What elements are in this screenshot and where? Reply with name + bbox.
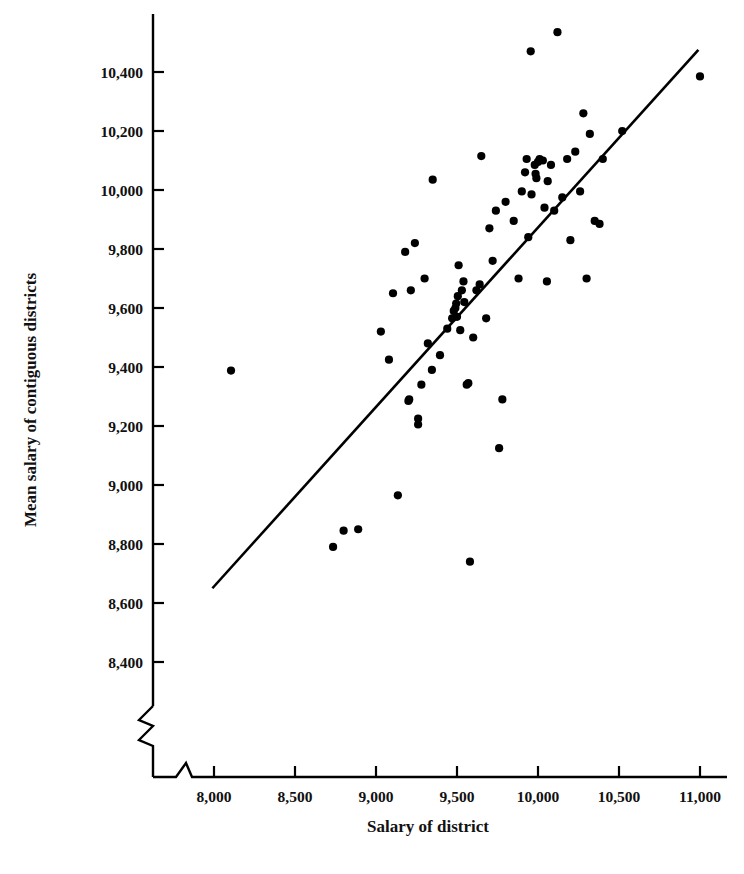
data-point [407,286,415,294]
x-tick-label: 8,500 [278,788,313,805]
data-point [527,47,535,55]
data-point [227,366,235,374]
x-axis-ticks: 8,0008,5009,0009,50010,00010,50011,000 [197,766,722,805]
y-tick-label: 10,000 [100,182,143,199]
data-point [489,257,497,265]
fit-line [212,50,698,588]
data-point [466,558,474,566]
data-point [563,155,571,163]
data-point [477,152,485,160]
data-point [377,328,385,336]
data-point [411,239,419,247]
data-point [417,381,425,389]
data-point [547,161,555,169]
data-point [456,326,464,334]
data-point [455,261,463,269]
data-point [485,224,493,232]
y-tick-label: 9,000 [108,477,143,494]
data-point [421,274,429,282]
data-point [514,274,522,282]
axes [139,14,727,777]
x-tick-label: 9,500 [440,788,475,805]
data-point [464,379,472,387]
x-tick-label: 10,000 [517,788,560,805]
x-tick-label: 10,500 [598,788,641,805]
data-point [401,248,409,256]
data-point [436,351,444,359]
data-point [540,204,548,212]
data-point [544,177,552,185]
data-point [458,286,466,294]
data-point [354,525,362,533]
data-point [510,217,518,225]
data-point [389,289,397,297]
data-point [394,491,402,499]
data-point [553,28,561,36]
data-point [696,72,704,80]
x-axis-label: Salary of district [367,817,489,836]
data-point [543,277,551,285]
data-point [532,174,540,182]
data-point [452,299,460,307]
y-tick-label: 10,200 [100,123,143,140]
data-point [498,395,506,403]
scatter-plot-figure: 8,4008,6008,8009,0009,2009,4009,6009,800… [0,0,744,874]
data-point [459,277,467,285]
data-point [571,148,579,156]
data-point [518,187,526,195]
data-point [576,187,584,195]
data-point [492,207,500,215]
data-point [385,356,393,364]
data-point [340,527,348,535]
y-tick-label: 8,400 [108,654,143,671]
x-tick-label: 8,000 [197,788,232,805]
data-point [502,198,510,206]
data-point [539,156,547,164]
data-point [329,543,337,551]
y-axis-label: Mean salary of contiguous districts [21,273,40,527]
data-point [428,366,436,374]
data-point [405,395,413,403]
data-point [566,236,574,244]
y-tick-label: 9,800 [108,241,143,258]
data-point [595,220,603,228]
x-tick-label: 9,000 [359,788,394,805]
data-point [414,415,422,423]
y-tick-label: 10,400 [100,64,143,81]
data-point [469,333,477,341]
data-point [495,444,503,452]
y-tick-label: 8,800 [108,536,143,553]
data-point [523,155,531,163]
data-point [482,314,490,322]
data-point [579,109,587,117]
data-point [586,130,594,138]
y-tick-label: 8,600 [108,595,143,612]
data-point [429,176,437,184]
regression-line [212,50,698,588]
y-axis-ticks: 8,4008,6008,8009,0009,2009,4009,6009,800… [100,64,164,671]
y-tick-label: 9,400 [108,359,143,376]
x-tick-label: 11,000 [679,788,721,805]
data-point [527,190,535,198]
plot-canvas: 8,4008,6008,8009,0009,2009,4009,6009,800… [0,0,744,874]
y-tick-label: 9,200 [108,418,143,435]
data-point [583,274,591,282]
y-tick-label: 9,600 [108,300,143,317]
data-point [521,168,529,176]
data-points [227,28,704,566]
